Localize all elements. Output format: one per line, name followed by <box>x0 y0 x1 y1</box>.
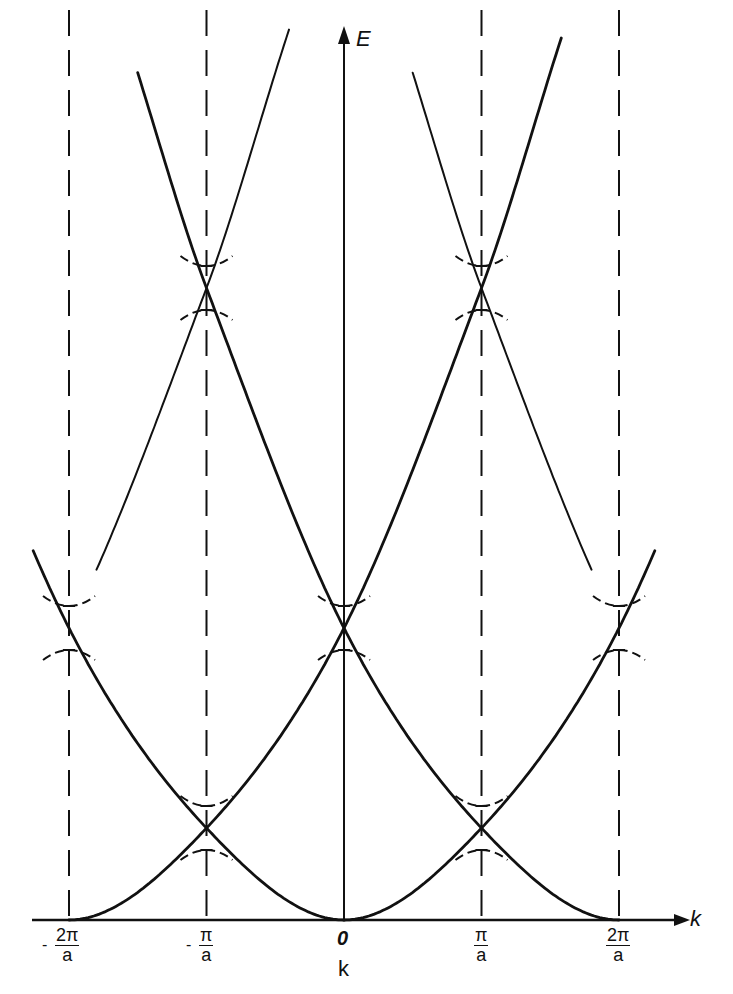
band-gap-arc <box>456 796 508 806</box>
band-gap-arc <box>593 596 645 606</box>
band-gap-arc <box>181 796 233 806</box>
band-curve <box>97 30 290 570</box>
band-curve <box>33 551 344 920</box>
e-axis-label: E <box>356 26 371 52</box>
tick-label-2pi-over-a: 2π a <box>606 926 630 965</box>
tick-label-minus-2pi-over-a: - 2π a <box>55 926 79 965</box>
k-caption: k <box>338 956 349 982</box>
band-curve <box>413 73 592 570</box>
k-axis-arrow-icon <box>674 914 690 926</box>
band-curve <box>344 551 655 920</box>
k-axis-label: k <box>690 906 701 932</box>
tick-label-pi-over-a: π a <box>474 926 488 965</box>
axes <box>32 26 690 926</box>
band-curve <box>138 73 619 920</box>
e-axis-arrow-icon <box>338 26 350 44</box>
origin-label: 0 <box>337 927 348 950</box>
band-structure-figure: E k 0 k - 2π a - π a π a 2π a <box>0 0 733 994</box>
band-curve <box>69 38 561 920</box>
band-gap-arc <box>43 596 95 606</box>
plot-canvas <box>0 0 733 994</box>
tick-label-minus-pi-over-a: - π a <box>199 926 213 965</box>
